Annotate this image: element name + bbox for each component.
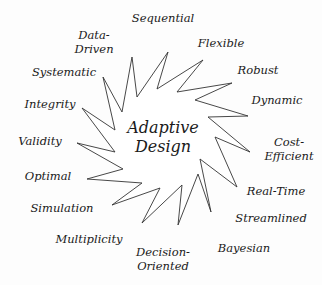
label-data-driven: Data-Driven <box>74 28 113 56</box>
label-text: Streamlined <box>235 211 307 225</box>
label-flexible: Flexible <box>198 36 244 50</box>
label-text: Systematic <box>32 65 96 79</box>
label-text: Simulation <box>30 201 93 215</box>
label-text: Efficient <box>264 149 313 163</box>
label-text: Dynamic <box>251 93 302 107</box>
label-validity: Validity <box>18 134 62 148</box>
label-bayesian: Bayesian <box>218 241 270 255</box>
label-text: Sequential <box>132 11 195 25</box>
label-text: Multiplicity <box>55 232 122 246</box>
label-text: Decision- <box>136 245 190 259</box>
label-multiplicity: Multiplicity <box>55 232 122 246</box>
label-decision-oriented: Decision-Oriented <box>136 245 190 273</box>
label-sequential: Sequential <box>132 11 195 25</box>
label-text: Oriented <box>136 259 190 273</box>
label-text: Driven <box>74 42 113 56</box>
label-text: Robust <box>238 63 279 77</box>
label-streamlined: Streamlined <box>235 211 307 225</box>
label-text: Integrity <box>24 97 75 111</box>
label-text: Cost- <box>264 135 313 149</box>
label-text: Validity <box>18 134 62 148</box>
label-text: Bayesian <box>218 241 270 255</box>
label-integrity: Integrity <box>24 97 75 111</box>
center-title-line1: Adaptive <box>127 118 199 137</box>
label-dynamic: Dynamic <box>251 93 302 107</box>
label-robust: Robust <box>238 63 279 77</box>
label-text: Optimal <box>25 169 72 183</box>
label-simulation: Simulation <box>30 201 93 215</box>
label-systematic: Systematic <box>32 65 96 79</box>
label-real-time: Real-Time <box>247 184 306 198</box>
label-cost-efficient: Cost-Efficient <box>264 135 313 163</box>
diagram-canvas: Adaptive Design SequentialFlexibleRobust… <box>0 0 322 285</box>
label-text: Flexible <box>198 36 244 50</box>
center-title: Adaptive Design <box>127 118 199 156</box>
label-text: Data- <box>74 28 113 42</box>
label-optimal: Optimal <box>25 169 72 183</box>
label-text: Real-Time <box>247 184 306 198</box>
center-title-line2: Design <box>127 137 199 156</box>
